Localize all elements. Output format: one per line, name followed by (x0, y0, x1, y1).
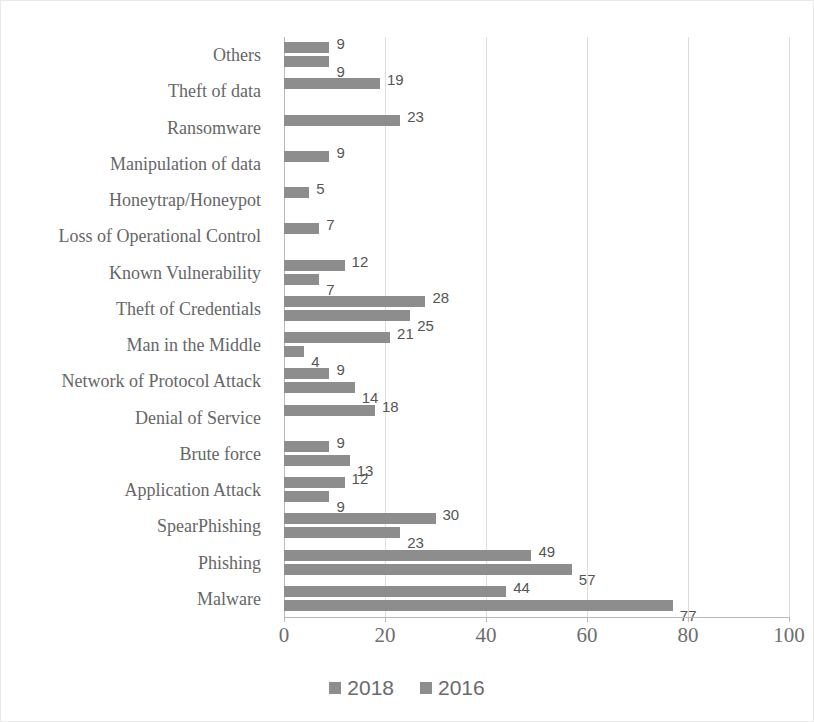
bar-2016 (284, 56, 329, 67)
category-label: Loss of Operational Control (59, 227, 261, 245)
chart-legend: 20182016 (1, 677, 813, 698)
bar-value-label: 12 (352, 471, 369, 486)
category-label: Brute force (180, 445, 261, 463)
bar-group: 2825 (284, 296, 789, 322)
bar-group: 19 (284, 78, 789, 104)
bar-2018 (284, 223, 319, 234)
bar-value-label: 21 (397, 326, 414, 341)
bar-value-label: 49 (538, 544, 555, 559)
bar-2018 (284, 477, 345, 488)
x-tick-mark (385, 617, 386, 622)
bar-2018 (284, 332, 390, 343)
category-label: SpearPhishing (157, 517, 261, 535)
bar-group: 5 (284, 187, 789, 213)
x-tick-mark (486, 617, 487, 622)
bar-2018 (284, 296, 425, 307)
bar-group: 914 (284, 368, 789, 394)
bar-value-label: 28 (432, 290, 449, 305)
bar-2018 (284, 586, 506, 597)
x-tick-label: 20 (375, 625, 396, 646)
bar-group: 3023 (284, 513, 789, 539)
bar-2018 (284, 368, 329, 379)
x-tick-label: 0 (279, 625, 290, 646)
bar-group: 9 (284, 151, 789, 177)
x-tick-mark (284, 617, 285, 622)
category-label: Manipulation of data (110, 155, 261, 173)
bar-2016 (284, 346, 304, 357)
bar-2018 (284, 187, 309, 198)
bar-2018 (284, 405, 375, 416)
bar-value-label: 44 (513, 580, 530, 595)
bar-2016 (284, 600, 673, 611)
bar-value-label: 9 (336, 36, 344, 51)
x-tick-label: 80 (678, 625, 699, 646)
bar-group: 4957 (284, 550, 789, 576)
bar-value-label: 25 (417, 318, 434, 333)
category-label: Theft of Credentials (116, 300, 261, 318)
category-label: Malware (197, 590, 261, 608)
bar-value-label: 12 (352, 254, 369, 269)
legend-label: 2018 (347, 677, 394, 698)
category-label: Others (213, 46, 261, 64)
legend-swatch-icon (329, 682, 341, 694)
category-label: Theft of data (168, 82, 261, 100)
bar-group: 23 (284, 115, 789, 141)
bar-value-label: 19 (387, 72, 404, 87)
x-tick-mark (688, 617, 689, 622)
bar-2016 (284, 382, 355, 393)
category-label: Ransomware (167, 119, 261, 137)
category-label: Network of Protocol Attack (62, 372, 261, 390)
bar-chart: OthersTheft of dataRansomwareManipulatio… (0, 0, 814, 722)
bar-value-label: 7 (326, 282, 334, 297)
bar-2016 (284, 527, 400, 538)
bar-value-label: 23 (407, 535, 424, 550)
bar-group: 99 (284, 42, 789, 68)
bar-group: 127 (284, 260, 789, 286)
bar-group: 913 (284, 441, 789, 467)
x-axis-line (284, 617, 789, 618)
bar-group: 4477 (284, 586, 789, 612)
gridline (789, 37, 790, 617)
bar-2016 (284, 310, 410, 321)
bar-2018 (284, 151, 329, 162)
category-label: Honeytrap/Honeypot (109, 191, 261, 209)
bar-group: 129 (284, 477, 789, 503)
bar-value-label: 9 (336, 145, 344, 160)
bar-2018 (284, 513, 436, 524)
x-tick-label: 40 (476, 625, 497, 646)
bar-2018 (284, 260, 345, 271)
bar-2016 (284, 455, 350, 466)
bar-value-label: 23 (407, 109, 424, 124)
category-axis: OthersTheft of dataRansomwareManipulatio… (1, 37, 273, 617)
x-tick-label: 100 (773, 625, 805, 646)
bar-value-label: 18 (382, 399, 399, 414)
bar-value-label: 57 (579, 572, 596, 587)
bar-value-label: 5 (316, 181, 324, 196)
x-tick-label: 60 (577, 625, 598, 646)
bar-2016 (284, 274, 319, 285)
bar-group: 18 (284, 405, 789, 431)
bar-group: 7 (284, 223, 789, 249)
bar-value-label: 9 (336, 362, 344, 377)
bar-2016 (284, 564, 572, 575)
category-label: Denial of Service (135, 409, 261, 427)
category-label: Known Vulnerability (109, 264, 261, 282)
legend-item-2018[interactable]: 2018 (329, 677, 394, 698)
bar-group: 214 (284, 332, 789, 358)
category-label: Phishing (198, 554, 261, 572)
bar-value-label: 7 (326, 217, 334, 232)
bar-2018 (284, 42, 329, 53)
plot-area: 9919239571272825214914189131293023495744… (284, 37, 789, 617)
bar-2018 (284, 441, 329, 452)
category-label: Application Attack (125, 481, 261, 499)
x-tick-mark (587, 617, 588, 622)
bar-value-label: 9 (336, 499, 344, 514)
legend-label: 2016 (438, 677, 485, 698)
bar-2018 (284, 115, 400, 126)
legend-item-2016[interactable]: 2016 (420, 677, 485, 698)
bar-2018 (284, 550, 531, 561)
bar-value-label: 14 (362, 390, 379, 405)
bar-value-label: 4 (311, 354, 319, 369)
legend-swatch-icon (420, 682, 432, 694)
bar-2016 (284, 491, 329, 502)
